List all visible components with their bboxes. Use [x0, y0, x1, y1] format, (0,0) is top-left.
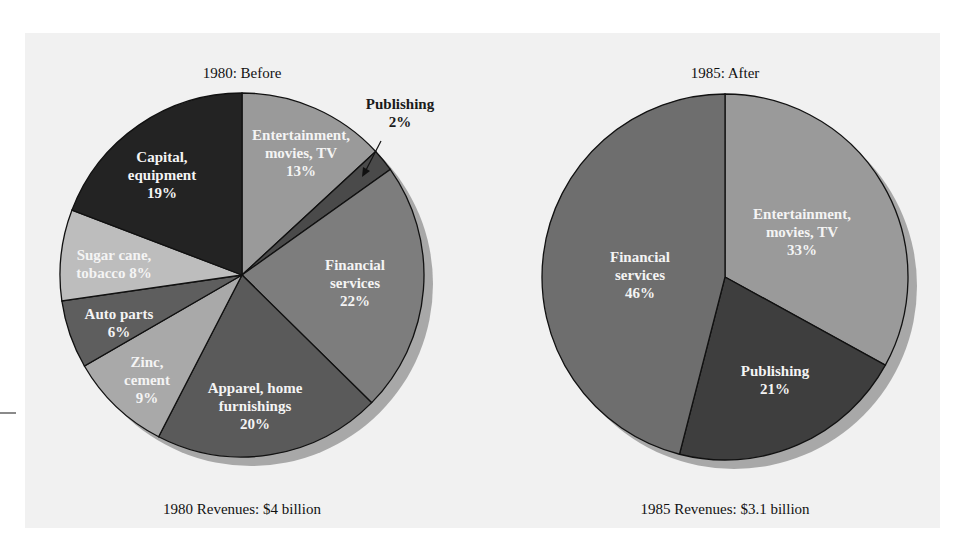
pie-1980-caption: 1980 Revenues: $4 billion: [163, 501, 321, 517]
pie-1985: Entertainment,movies, TV33%Publishing21%…: [542, 94, 917, 469]
pie-charts-figure: 1980: Before 1985: After Entertainment,m…: [0, 0, 978, 551]
pie-1980: Entertainment,movies, TV13%Publishing2%F…: [60, 93, 435, 466]
pie-1985-title: 1985: After: [691, 65, 760, 81]
pie-1985-caption: 1985 Revenues: $3.1 billion: [640, 501, 810, 517]
slice-label: Publishing2%: [366, 96, 435, 130]
pie-1980-title: 1980: Before: [203, 65, 282, 81]
